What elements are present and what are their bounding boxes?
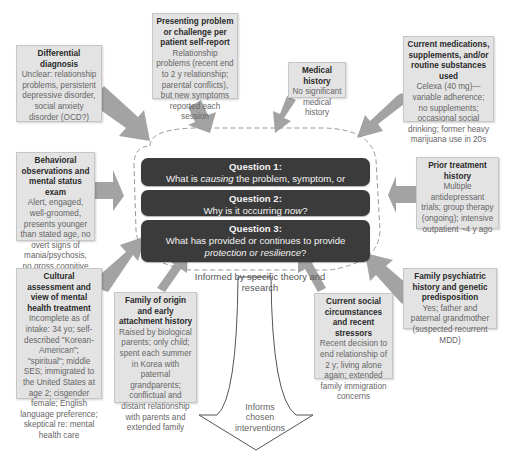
question-3-text: What has provided or continues to provid… xyxy=(147,235,364,259)
assessment-diagram: Question 1: What is causing the problem,… xyxy=(0,0,505,466)
arrow-behavioral-icon xyxy=(95,170,124,211)
box-body: Unclear: relationship problems, persiste… xyxy=(20,70,98,123)
question-2-text: Why is it occurring now? xyxy=(147,205,364,217)
box-title: Differential diagnosis xyxy=(20,49,98,70)
box-title: Family psychiatric history and genetic p… xyxy=(407,272,493,304)
box-current-medications: Current medications, supplements, and/or… xyxy=(403,36,494,122)
box-body: Raised by biological parents; only child… xyxy=(118,328,193,434)
question-1-title: Question 1: xyxy=(147,161,364,173)
box-title: Medical history xyxy=(292,66,342,87)
box-body: Relationship problems (recent end to 2 y… xyxy=(156,49,234,123)
question-1-box: Question 1: What is causing the problem,… xyxy=(141,158,370,186)
box-body: Incomplete as of intake: 34 yo; self-des… xyxy=(20,314,98,441)
question-2-title: Question 2: xyxy=(147,193,364,205)
box-body: Yes; father and paternal grandmother (su… xyxy=(407,304,493,346)
box-differential-diagnosis: Differential diagnosis Unclear: relation… xyxy=(16,45,102,122)
question-3-box: Question 3: What has provided or continu… xyxy=(141,220,370,262)
arrow-medications-icon xyxy=(357,93,408,138)
question-2-box: Question 2: Why is it occurring now? xyxy=(141,190,370,216)
informs-interventions-label: Informs chosen interventions xyxy=(230,402,290,433)
box-title: Current social circumstances and recent … xyxy=(318,297,389,339)
box-presenting-problem: Presenting problem or challenge per pati… xyxy=(152,13,238,99)
box-title: Presenting problem or challenge per pati… xyxy=(156,17,234,49)
box-medical-history: Medical history No significant medical h… xyxy=(288,62,346,98)
box-title: Family of origin and early attachment hi… xyxy=(118,296,193,328)
box-family-of-origin: Family of origin and early attachment hi… xyxy=(114,292,197,403)
box-prior-treatment: Prior treatment history Multiple antidep… xyxy=(416,157,499,229)
box-title: Cultural assessment and view of mental h… xyxy=(20,272,98,314)
box-body: Multiple antidepressant trials; group th… xyxy=(420,182,495,235)
arrow-prior-treatment-icon xyxy=(388,176,416,213)
box-family-psychiatric-history: Family psychiatric history and genetic p… xyxy=(403,268,497,329)
box-title: Current medications, supplements, and/or… xyxy=(407,40,490,82)
box-body: Recent decision to end relationship of 2… xyxy=(318,339,389,403)
box-title: Prior treatment history xyxy=(420,161,495,182)
box-cultural-assessment: Cultural assessment and view of mental h… xyxy=(16,268,102,399)
box-behavioral-observations: Behavioral observations and mental statu… xyxy=(16,152,95,241)
box-title: Behavioral observations and mental statu… xyxy=(20,156,91,198)
box-body: Celexa (40 mg)—variable adherence; no su… xyxy=(407,82,490,146)
question-3-title: Question 3: xyxy=(147,223,364,235)
informed-by-label: Informed by specific theory and research xyxy=(190,271,330,294)
box-body: No significant medical history xyxy=(292,87,342,119)
box-social-circumstances: Current social circumstances and recent … xyxy=(314,293,393,379)
